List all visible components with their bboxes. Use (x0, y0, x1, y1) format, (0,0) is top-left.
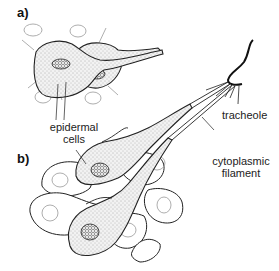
epidermal-cells-label: epidermal cells (44, 121, 104, 145)
background-cell-outline (24, 24, 42, 36)
nucleus (81, 224, 99, 240)
tracheole-tube (228, 40, 253, 85)
nucleus (91, 163, 109, 177)
diagram-svg (0, 0, 279, 271)
background-cell-outline (70, 25, 86, 37)
cytoplasmic-filament-label: cytoplasmic filament (206, 155, 276, 179)
background-cell-outline (85, 92, 101, 104)
panel-b-drawing (30, 82, 235, 262)
panel-label-b: b) (17, 151, 29, 166)
tracheole-label: tracheole (222, 109, 267, 121)
nucleus (52, 59, 70, 69)
background-cell (144, 189, 182, 224)
cytoplasmic-filament-line (192, 84, 230, 108)
panel-label-a: a) (17, 5, 29, 20)
diagram-canvas: a) b) epidermal cells tracheole cytoplas… (0, 0, 279, 271)
panel-a-drawing (22, 24, 163, 120)
